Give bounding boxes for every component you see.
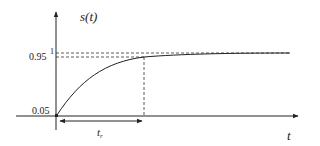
level-095-label: 0.95 [29,51,47,62]
y-axis-label: s(t) [80,9,97,24]
x-axis-label: t [287,128,291,143]
step-response-diagram: s(t) t 0.95 1 0.05 tr [0,0,320,146]
rise-time-label: tr [97,126,103,140]
rise-time-label-subscript: r [100,132,103,140]
level-005-label: 0.05 [32,105,50,116]
start-point-marker [55,114,58,117]
level-1-label: 1 [50,47,54,56]
response-curve [57,53,290,115]
